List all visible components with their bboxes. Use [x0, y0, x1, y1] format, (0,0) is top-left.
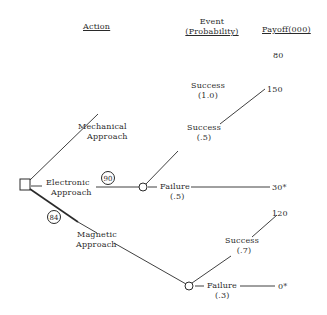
mechanical-success-label: Success — [188, 81, 228, 90]
magnetic-success-label: Success — [222, 236, 262, 245]
electronic-failure-payoff: 30* — [272, 183, 287, 192]
magnetic-success-payoff: 120 — [272, 209, 288, 218]
header-event: Event — [182, 17, 242, 26]
header-action: Action — [83, 22, 110, 31]
mechanical-payoff: 80 — [273, 51, 284, 60]
magnetic-failure-label: Failure — [207, 281, 237, 290]
electronic-label-line1: Electronic — [46, 178, 90, 187]
magnetic-label-line1: Magnetic — [77, 230, 117, 239]
magnetic-success-line-a — [192, 256, 231, 283]
electronic-success-probability: (.5) — [184, 133, 224, 142]
electronic-success-line-a — [146, 151, 178, 184]
magnetic-expected-value-badge: 84 — [47, 210, 61, 224]
electronic-success-label: Success — [184, 123, 224, 132]
magnetic-success-line-b — [252, 215, 277, 237]
decision-node-square — [20, 179, 30, 190]
magnetic-chance-node — [185, 282, 193, 290]
mechanical-label-line2: Approach — [87, 132, 128, 141]
electronic-failure-probability: (.5) — [170, 192, 185, 201]
mechanical-success-probability: (1.0) — [188, 91, 228, 100]
magnetic-failure-probability: (.3) — [215, 291, 230, 300]
magnetic-failure-payoff: 0* — [278, 282, 288, 291]
decision-tree-lines — [0, 0, 327, 315]
magnetic-label-line2: Approach — [76, 240, 117, 249]
electronic-success-payoff: 150 — [267, 85, 283, 94]
electronic-expected-value-badge: 90 — [101, 171, 115, 185]
header-payoff: Payoff(000) — [262, 25, 311, 34]
electronic-chance-node — [139, 183, 147, 191]
electronic-label-line2: Approach — [51, 188, 92, 197]
electronic-failure-label: Failure — [160, 182, 190, 191]
magnetic-branch-line-c — [114, 243, 186, 284]
magnetic-success-probability: (.7) — [224, 246, 264, 255]
mechanical-label-line1: Mechanical — [78, 122, 127, 131]
header-probability: (Probability) — [182, 27, 242, 36]
